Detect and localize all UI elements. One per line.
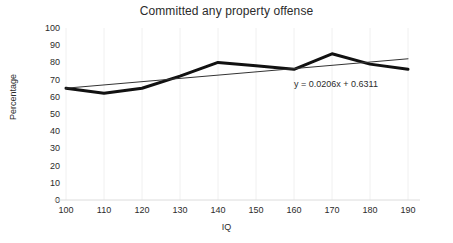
- plot-area: [0, 0, 453, 243]
- trendline-equation: y = 0.0206x + 0.6311: [294, 79, 378, 89]
- chart-container: Committed any property offense Percentag…: [0, 0, 453, 243]
- gridlines: [66, 28, 408, 200]
